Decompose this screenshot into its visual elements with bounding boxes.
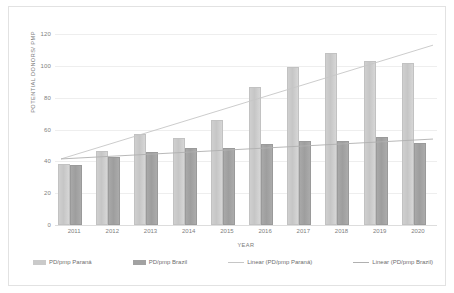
bar-group-2015 xyxy=(208,34,246,225)
legend-line-swatch-icon xyxy=(353,262,369,263)
bar-parana-2013[interactable] xyxy=(134,134,146,225)
x-tick-label-2015: 2015 xyxy=(220,228,233,234)
bar-brazil-2017[interactable] xyxy=(299,141,311,225)
legend-item-3[interactable]: Linear (PD/pmp Brazil) xyxy=(353,259,433,265)
y-tick-label-60: 60 xyxy=(44,127,51,133)
bar-brazil-2011[interactable] xyxy=(70,165,82,225)
bar-group-2018 xyxy=(322,34,360,225)
x-tick-label-2017: 2017 xyxy=(297,228,310,234)
bars-layer xyxy=(55,34,437,225)
bar-brazil-2018[interactable] xyxy=(337,141,349,225)
legend-bar-swatch-icon xyxy=(133,260,146,265)
legend-item-1[interactable]: PD/pmp Brazil xyxy=(133,259,187,265)
bar-brazil-2016[interactable] xyxy=(261,144,273,225)
x-tick-label-2019: 2019 xyxy=(373,228,386,234)
x-tick-label-2013: 2013 xyxy=(144,228,157,234)
legend-label: PD/pmp Brazil xyxy=(149,259,187,265)
y-tick-label-80: 80 xyxy=(44,95,51,101)
bar-group-2012 xyxy=(93,34,131,225)
bar-brazil-2012[interactable] xyxy=(108,157,120,225)
x-tick-label-2014: 2014 xyxy=(182,228,195,234)
legend-item-2[interactable]: Linear (PD/pmp Paraná) xyxy=(228,259,312,265)
bar-parana-2011[interactable] xyxy=(58,164,70,225)
bar-brazil-2013[interactable] xyxy=(146,152,158,225)
bar-group-2016 xyxy=(246,34,284,225)
x-tick-label-2016: 2016 xyxy=(258,228,271,234)
x-tick-label-2020: 2020 xyxy=(411,228,424,234)
bar-brazil-2020[interactable] xyxy=(414,143,426,225)
y-tick-label-40: 40 xyxy=(44,158,51,164)
bar-brazil-2015[interactable] xyxy=(223,148,235,225)
bar-group-2017 xyxy=(284,34,322,225)
legend-label: Linear (PD/pmp Brazil) xyxy=(372,259,433,265)
x-tick-label-2018: 2018 xyxy=(335,228,348,234)
bar-group-2019 xyxy=(361,34,399,225)
bar-group-2013 xyxy=(131,34,169,225)
bar-parana-2015[interactable] xyxy=(211,120,223,225)
legend-label: PD/pmp Paraná xyxy=(49,259,92,265)
legend-label: Linear (PD/pmp Paraná) xyxy=(247,259,312,265)
bar-parana-2020[interactable] xyxy=(402,63,414,225)
x-tick-label-2011: 2011 xyxy=(68,228,81,234)
legend-item-0[interactable]: PD/pmp Paraná xyxy=(33,259,92,265)
bar-parana-2018[interactable] xyxy=(325,53,337,225)
y-axis-tick-labels: 020406080100120 xyxy=(27,34,51,225)
plot-area xyxy=(55,34,437,225)
bar-parana-2014[interactable] xyxy=(173,138,185,225)
x-axis-tick-labels: 2011201220132014201520162017201820192020 xyxy=(55,228,437,240)
bar-brazil-2019[interactable] xyxy=(376,137,388,225)
y-tick-label-100: 100 xyxy=(40,63,51,69)
bar-group-2011 xyxy=(55,34,93,225)
gridline-0 xyxy=(55,225,437,226)
bar-brazil-2014[interactable] xyxy=(185,148,197,225)
bar-group-2020 xyxy=(399,34,437,225)
chart-legend: PD/pmp ParanáPD/pmp BrazilLinear (PD/pmp… xyxy=(33,259,433,265)
legend-line-swatch-icon xyxy=(228,262,244,263)
y-tick-label-20: 20 xyxy=(44,190,51,196)
bar-parana-2012[interactable] xyxy=(96,151,108,225)
chart-frame: POTENTIAL DONORS/ PMP 020406080100120 20… xyxy=(8,6,446,286)
bar-group-2014 xyxy=(170,34,208,225)
y-tick-label-120: 120 xyxy=(40,31,51,37)
bar-parana-2016[interactable] xyxy=(249,87,261,225)
legend-bar-swatch-icon xyxy=(33,260,46,265)
bar-parana-2017[interactable] xyxy=(287,67,299,225)
x-tick-label-2012: 2012 xyxy=(106,228,119,234)
x-axis-title: YEAR xyxy=(55,242,437,248)
bar-parana-2019[interactable] xyxy=(364,61,376,225)
y-tick-label-0: 0 xyxy=(47,222,51,228)
chart-card: POTENTIAL DONORS/ PMP 020406080100120 20… xyxy=(0,0,454,293)
